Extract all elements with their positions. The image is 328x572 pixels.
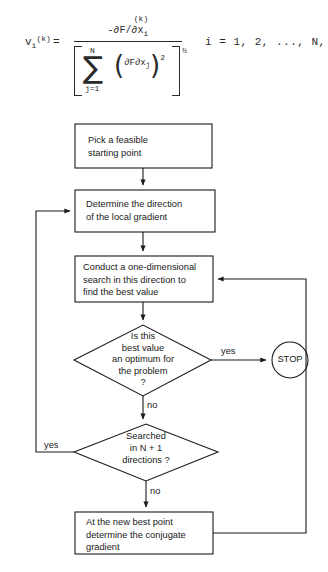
label-pick-feasible-start: Pick a feasible starting point bbox=[88, 134, 208, 159]
edge-label-searched-no: no bbox=[150, 486, 160, 496]
label-conjugate-gradient: At the new best point determine the conj… bbox=[86, 516, 214, 554]
label-is-optimum-decision: Is this best value an optimum for the pr… bbox=[88, 331, 198, 389]
label-determine-direction: Determine the direction of the local gra… bbox=[86, 198, 214, 223]
label-one-dimensional-search: Conduct a one-dimensional search in this… bbox=[83, 261, 215, 299]
edge-label-searched-yes: yes bbox=[44, 440, 58, 450]
edge-conjugate-loop-to-search bbox=[213, 279, 306, 533]
edge-label-optimum-no: no bbox=[147, 400, 157, 410]
edge-label-optimum-yes: yes bbox=[221, 346, 235, 356]
flowchart-diagram: Pick a feasible starting point Determine… bbox=[0, 0, 328, 572]
label-stop-terminal: STOP bbox=[268, 354, 312, 364]
label-searched-n-plus-1-decision: Searched in N + 1 directions ? bbox=[96, 430, 196, 466]
edge-searched-yes-loop-to-determine bbox=[36, 211, 74, 452]
